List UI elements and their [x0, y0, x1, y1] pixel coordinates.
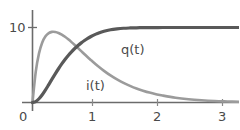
curve-q-t — [33, 27, 240, 102]
chart-figure: 10 0 1 2 3 q(t) i(t) — [0, 0, 239, 130]
y-axis-tick-label-10: 10 — [9, 21, 26, 34]
x-axis-tick-label-2: 2 — [153, 110, 161, 123]
x-axis-tick-label-3: 3 — [218, 110, 226, 123]
x-axis-tick-label-0: 0 — [19, 110, 27, 123]
curve-label-q: q(t) — [121, 43, 145, 56]
x-axis-tick-label-1: 1 — [88, 110, 96, 123]
plot-canvas — [0, 0, 239, 130]
curve-label-i: i(t) — [86, 79, 105, 92]
